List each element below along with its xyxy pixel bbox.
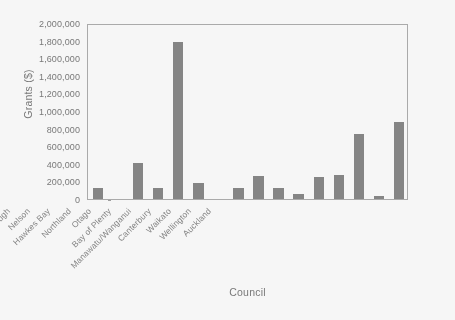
bar-northland bbox=[253, 176, 263, 199]
bar-waikato bbox=[354, 134, 364, 199]
x-axis-tick-labels: GisborneWest CoastSouthlandTaranakiTasma… bbox=[87, 200, 408, 290]
bar-southland bbox=[133, 163, 143, 199]
bar-marlborough bbox=[193, 183, 203, 199]
bar-manawatu-wanganui bbox=[314, 177, 324, 199]
y-axis-tick-labels: 2,000,0001,800,0001,600,0001,400,0001,20… bbox=[24, 24, 84, 200]
bar-gisborne bbox=[93, 188, 103, 199]
y-axis-tick-label: 0 bbox=[75, 195, 80, 205]
bar-tasman bbox=[173, 42, 183, 199]
y-axis-tick-label: 1,800,000 bbox=[39, 37, 80, 47]
bar-otago bbox=[273, 188, 283, 199]
bar-auckland bbox=[394, 122, 404, 199]
y-axis-tick-label: 600,000 bbox=[47, 142, 80, 152]
y-axis-tick-label: 1,600,000 bbox=[39, 54, 80, 64]
y-axis-tick-label: 1,200,000 bbox=[39, 89, 80, 99]
y-axis-tick-label: 200,000 bbox=[47, 177, 80, 187]
plot-area bbox=[87, 24, 408, 200]
bar-canterbury bbox=[334, 175, 344, 199]
bars-layer bbox=[88, 25, 407, 199]
y-axis-tick-label: 800,000 bbox=[47, 125, 80, 135]
y-axis-tick-label: 400,000 bbox=[47, 160, 80, 170]
y-axis-tick-label: 1,000,000 bbox=[39, 107, 80, 117]
y-axis-tick-label: 1,400,000 bbox=[39, 72, 80, 82]
bar-bay-of-plenty bbox=[293, 194, 303, 199]
y-axis-tick-label: 2,000,000 bbox=[39, 19, 80, 29]
bar-hawkes-bay bbox=[233, 188, 243, 199]
bar-wellington bbox=[374, 196, 384, 199]
bar-taranaki bbox=[153, 188, 163, 199]
x-axis-title: Council bbox=[87, 286, 408, 298]
bar-chart-figure: Grants ($) 2,000,0001,800,0001,600,0001,… bbox=[0, 0, 455, 320]
